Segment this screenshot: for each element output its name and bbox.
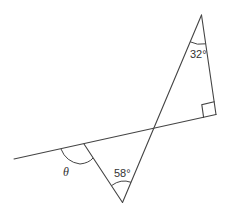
geometry-diagram: 32° 58° θ [0, 0, 229, 215]
angle-arc-top [190, 42, 206, 45]
angle-arc-bottom [112, 181, 132, 186]
angle-label-bottom: 58° [114, 167, 131, 179]
angle-label-top: 32° [190, 48, 207, 60]
upper-triangle-right-side [202, 15, 217, 115]
main-line [14, 115, 216, 160]
transversal-line [123, 15, 202, 203]
angle-label-theta: θ [63, 165, 69, 179]
